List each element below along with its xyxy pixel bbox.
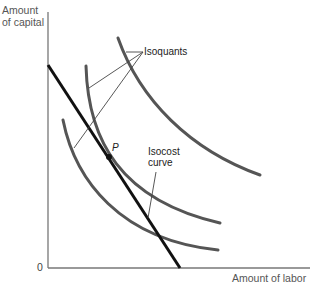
isoquant-isocost-diagram: Amount of capital Amount of labor 0 Isoq… — [0, 0, 316, 287]
isoquants-leader-3 — [74, 52, 143, 148]
isocost-curve-label: Isocost curve — [148, 146, 180, 168]
x-axis-label: Amount of labor — [232, 272, 306, 284]
y-axis-label: Amount of capital — [2, 4, 44, 28]
isoquant-curve-3 — [118, 38, 260, 175]
isocost-label-line1: Isocost — [148, 146, 180, 157]
tangency-point-label: P — [112, 142, 119, 154]
isoquants-label: Isoquants — [144, 46, 187, 58]
origin-label: 0 — [37, 261, 43, 273]
diagram-canvas — [0, 0, 316, 287]
isoquants-leader-2 — [89, 52, 143, 88]
isocost-label-line2: curve — [148, 157, 180, 168]
y-axis-label-line2: of capital — [2, 16, 44, 28]
y-axis-label-line1: Amount — [2, 4, 44, 16]
tangency-point-marker — [106, 154, 112, 160]
